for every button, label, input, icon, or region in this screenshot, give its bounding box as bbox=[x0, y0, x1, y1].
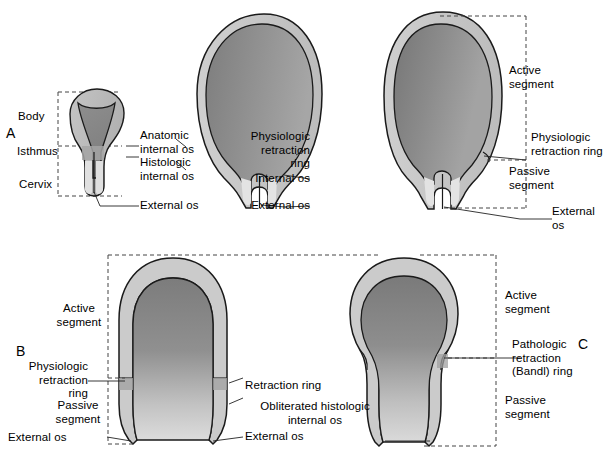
label-passive-segment-b: Passive segment bbox=[46, 399, 110, 426]
panel-letter-a: A bbox=[6, 125, 15, 141]
label-external-os-b: External os bbox=[8, 431, 67, 445]
label-active-segment-top: Active segment bbox=[509, 64, 554, 91]
label-physiologic-retraction-ring-2: Physiologic retraction ring bbox=[200, 130, 310, 171]
label-histologic-internal-os: Histologic internal os bbox=[140, 156, 194, 183]
label-passive-segment-c: Passive segment bbox=[505, 394, 550, 421]
label-body: Body bbox=[18, 110, 45, 124]
cervix-region-a2 bbox=[96, 161, 103, 194]
ring-band-b-left bbox=[119, 378, 133, 390]
isthmus-band-a bbox=[82, 146, 104, 160]
bandl-band-right bbox=[437, 354, 448, 368]
diagram-canvas: A Body Isthmus Cervix Anatomic internal … bbox=[0, 0, 611, 453]
label-isthmus: Isthmus bbox=[17, 145, 58, 159]
label-external-os-2: External os bbox=[205, 199, 310, 213]
label-physiologic-retraction-ring-top: Physiologic retraction ring bbox=[531, 131, 603, 158]
label-active-segment-b: Active segment bbox=[48, 302, 110, 329]
label-passive-segment-top: Passive segment bbox=[509, 165, 554, 192]
label-active-segment-c: Active segment bbox=[505, 289, 550, 316]
label-internal-os-2: Internal os bbox=[205, 172, 310, 186]
label-obliterated-histologic-internal-os: Obliterated histologic internal os bbox=[241, 400, 389, 427]
uterus-cavity-b bbox=[133, 278, 213, 440]
label-cervix: Cervix bbox=[19, 178, 52, 192]
ring-band-b-right bbox=[213, 378, 227, 390]
label-pathologic-retraction-ring: Pathologic retraction (Bandl) ring bbox=[512, 338, 573, 379]
label-external-os-center: External os bbox=[245, 430, 304, 444]
label-anatomic-internal-os: Anatomic internal os bbox=[140, 129, 194, 156]
label-external-os-a: External os bbox=[140, 199, 199, 213]
label-external-os-top: External os bbox=[552, 205, 595, 232]
label-retraction-ring: Retraction ring bbox=[245, 379, 321, 393]
label-physiologic-retraction-ring-b: Physiologic retraction ring bbox=[12, 360, 88, 401]
cervix-region-a bbox=[85, 161, 92, 194]
panel-letter-b: B bbox=[16, 343, 25, 359]
panel-letter-c: C bbox=[578, 336, 588, 352]
